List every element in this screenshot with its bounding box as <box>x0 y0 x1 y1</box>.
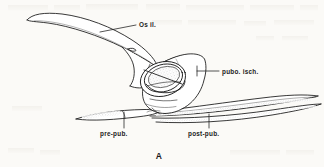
figure-letter: A <box>156 151 163 161</box>
label-post-pub: post-pub. <box>188 130 219 138</box>
pelvic-girdle-drawing: Os il. pubo. isch. pre-pub. post-pub. A <box>0 0 324 167</box>
figure-panel: Os il. pubo. isch. pre-pub. post-pub. A <box>0 0 324 167</box>
label-pre-pub: pre-pub. <box>100 130 128 138</box>
label-os-il: Os il. <box>139 21 156 28</box>
label-pubo-isch: pubo. isch. <box>222 68 258 76</box>
